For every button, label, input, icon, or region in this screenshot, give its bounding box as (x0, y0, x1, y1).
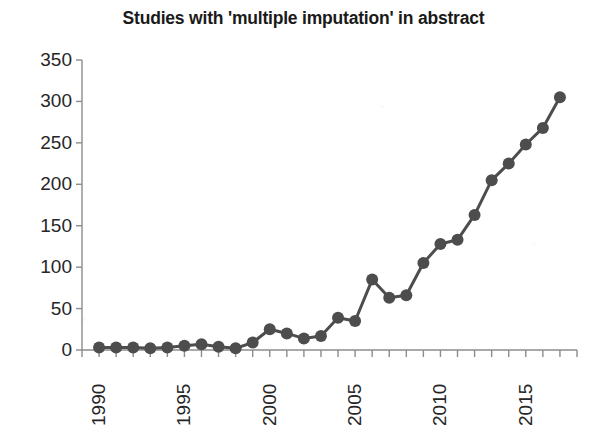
data-point-marker (469, 209, 481, 221)
data-point-marker (298, 332, 310, 344)
data-point-marker (213, 341, 225, 353)
data-point-marker (247, 337, 259, 349)
data-point-marker (486, 174, 498, 186)
data-point-marker (417, 257, 429, 269)
data-point-marker (434, 238, 446, 250)
data-point-marker (537, 122, 549, 134)
data-point-marker (127, 342, 139, 354)
data-point-marker (315, 330, 327, 342)
y-axis-tick-label: 0 (16, 340, 72, 359)
data-point-marker (503, 158, 515, 170)
x-axis-tick-label: 1990 (89, 384, 108, 426)
data-point-marker (520, 139, 532, 151)
y-axis-tick-label: 300 (16, 91, 72, 110)
data-point-marker (554, 91, 566, 103)
x-axis-tick-label: 2015 (516, 384, 535, 426)
chart-axes (76, 60, 577, 357)
data-point-marker (332, 312, 344, 324)
x-axis-tick-label: 1995 (174, 384, 193, 426)
data-point-marker (366, 274, 378, 286)
data-point-marker (178, 340, 190, 352)
data-point-marker (195, 338, 207, 350)
chart-data-markers (93, 91, 566, 354)
chart-series-line (99, 97, 560, 348)
data-point-marker (93, 342, 105, 354)
data-point-marker (452, 234, 464, 246)
data-point-marker (144, 342, 156, 354)
x-axis-tick-label: 2000 (260, 384, 279, 426)
y-axis-tick-label: 50 (16, 299, 72, 318)
data-point-marker (383, 292, 395, 304)
x-axis-tick-label: 2005 (345, 384, 364, 426)
data-point-marker (161, 342, 173, 354)
y-axis-tick-label: 150 (16, 216, 72, 235)
x-axis-tick-label: 2010 (430, 384, 449, 426)
y-axis-tick-label: 200 (16, 174, 72, 193)
y-axis-tick-label: 350 (16, 50, 72, 69)
data-point-marker (349, 315, 361, 327)
data-point-marker (230, 342, 242, 354)
y-axis-tick-label: 250 (16, 133, 72, 152)
chart-plot-area (0, 0, 607, 444)
y-axis-tick-label: 100 (16, 257, 72, 276)
chart-container: Studies with 'multiple imputation' in ab… (0, 0, 607, 444)
data-point-marker (400, 289, 412, 301)
series-line-studies (99, 97, 560, 348)
data-point-marker (110, 342, 122, 354)
data-point-marker (281, 327, 293, 339)
data-point-marker (264, 323, 276, 335)
